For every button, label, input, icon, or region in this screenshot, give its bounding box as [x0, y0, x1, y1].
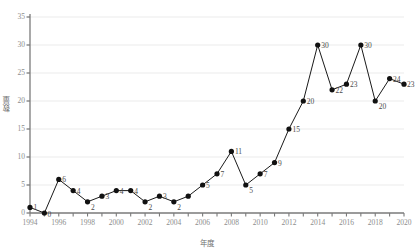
data-point-label: 30: [321, 41, 329, 50]
data-point-marker: [229, 149, 234, 154]
x-tick-label: 2020: [390, 218, 418, 227]
x-tick-label: 2002: [131, 218, 159, 227]
data-point-marker: [272, 160, 277, 165]
x-tick-label: 2000: [102, 218, 130, 227]
data-point-label: 30: [364, 41, 372, 50]
data-point-label: 23: [407, 80, 415, 89]
data-point-label: 23: [350, 80, 358, 89]
data-point-marker: [373, 98, 378, 103]
data-point-label: 4: [120, 187, 124, 196]
x-tick-label: 1996: [45, 218, 73, 227]
data-point-label: 2: [149, 203, 153, 212]
data-point-label: 3: [105, 192, 109, 201]
data-point-marker: [42, 210, 47, 215]
data-point-marker: [186, 194, 191, 199]
data-point-label: 9: [278, 159, 282, 168]
data-point-marker: [142, 199, 147, 204]
x-tick-label: 2008: [217, 218, 245, 227]
data-point-marker: [243, 182, 248, 187]
x-tick-label: 2004: [160, 218, 188, 227]
x-tick-label: 1998: [74, 218, 102, 227]
data-point-label: 1: [34, 203, 38, 212]
data-point-marker: [344, 82, 349, 87]
data-point-marker: [301, 98, 306, 103]
data-point-label: 20: [307, 97, 315, 106]
data-point-label: 2: [91, 203, 95, 212]
y-tick-label: 30: [4, 40, 25, 49]
data-point-marker: [114, 188, 119, 193]
data-point-marker: [157, 194, 162, 199]
data-point-label: 20: [379, 102, 387, 111]
data-point-marker: [171, 199, 176, 204]
data-point-marker: [358, 42, 363, 47]
data-point-marker: [258, 171, 263, 176]
x-tick-label: 1994: [16, 218, 44, 227]
data-point-marker: [329, 87, 334, 92]
data-point-label: 5: [206, 181, 210, 190]
data-point-label: 0: [47, 210, 51, 219]
data-point-label: 22: [336, 86, 344, 95]
y-tick-label: 35: [4, 12, 25, 21]
data-point-label: 24: [393, 75, 401, 84]
data-point-marker: [27, 205, 32, 210]
data-point-marker: [387, 76, 392, 81]
x-tick-label: 2012: [275, 218, 303, 227]
data-point-label: 15: [292, 125, 300, 134]
data-point-marker: [56, 177, 61, 182]
x-tick-label: 2006: [189, 218, 217, 227]
data-point-label: 2: [177, 203, 181, 212]
data-point-marker: [286, 126, 291, 131]
x-tick-label: 2018: [361, 218, 389, 227]
x-tick-label: 2016: [332, 218, 360, 227]
data-point-marker: [315, 42, 320, 47]
data-point-label: 4: [134, 187, 138, 196]
data-point-label: 7: [221, 170, 225, 179]
data-point-label: 6: [62, 175, 66, 184]
y-tick-label: 0: [4, 208, 25, 217]
y-tick-label: 10: [4, 152, 25, 161]
y-tick-label: 20: [4, 96, 25, 105]
y-tick-label: 5: [4, 180, 25, 189]
x-tick-label: 2014: [304, 218, 332, 227]
data-point-label: 11: [235, 147, 242, 156]
data-point-marker: [99, 194, 104, 199]
x-axis-title: 年度: [0, 237, 413, 248]
data-point-marker: [128, 188, 133, 193]
y-tick-label: 15: [4, 124, 25, 133]
data-point-label: 5: [249, 186, 253, 195]
data-point-label: 7: [264, 170, 268, 179]
y-tick-label: 25: [4, 68, 25, 77]
data-point-marker: [200, 182, 205, 187]
data-point-marker: [85, 199, 90, 204]
x-tick-label: 2010: [246, 218, 274, 227]
data-point-label: 3: [163, 192, 167, 201]
data-point-marker: [214, 171, 219, 176]
data-point-label: 4: [77, 187, 81, 196]
data-point-marker: [401, 82, 406, 87]
data-point-marker: [71, 188, 76, 193]
